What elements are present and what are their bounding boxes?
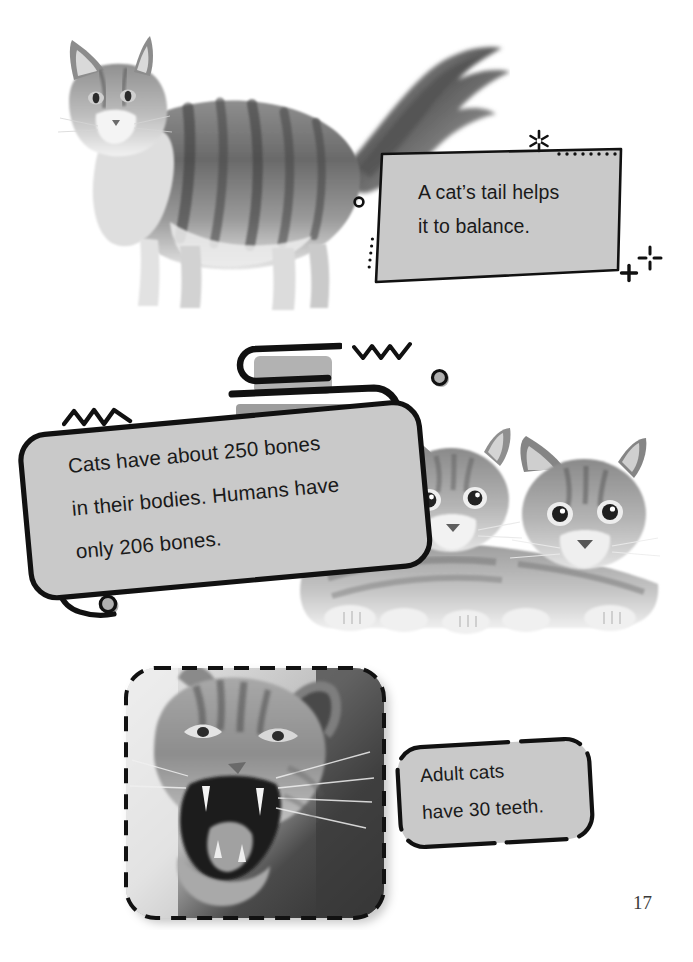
dotted-line-icon bbox=[556, 150, 618, 158]
photo-yawning-cat bbox=[118, 660, 400, 930]
callout-line: A cat’s tail helps bbox=[418, 175, 559, 209]
zigzag-icon bbox=[352, 340, 414, 362]
page-number: 17 bbox=[633, 892, 652, 914]
callout-teeth-text: Adult cats have 30 teeth. bbox=[419, 750, 545, 831]
dotted-line-vertical-icon bbox=[366, 236, 376, 272]
ring-grey-icon bbox=[428, 366, 452, 390]
callout-line: have 30 teeth. bbox=[421, 787, 545, 831]
callout-teeth: Adult cats have 30 teeth. bbox=[393, 735, 598, 853]
sparkle-asterisk-icon bbox=[527, 128, 551, 154]
callout-tail-balance: A cat’s tail helps it to balance. bbox=[368, 142, 630, 292]
book-page: A cat’s tail helps it to balance. bbox=[0, 0, 693, 962]
callout-bones: Cats have about 250 bones in their bodie… bbox=[18, 392, 438, 624]
sparkle-four-point-icon bbox=[637, 245, 663, 271]
callout-tail-balance-text: A cat’s tail helps it to balance. bbox=[418, 175, 559, 243]
callout-line: it to balance. bbox=[418, 209, 559, 243]
callout-bones-text: Cats have about 250 bones in their bodie… bbox=[66, 420, 345, 573]
ring-small-icon bbox=[352, 195, 366, 209]
